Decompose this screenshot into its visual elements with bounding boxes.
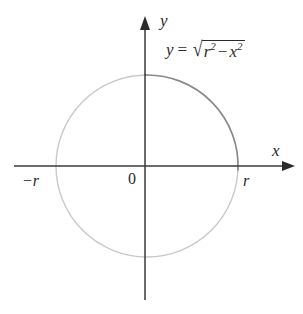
equation-lhs: y: [166, 40, 174, 60]
origin-label: 0: [128, 171, 136, 187]
highlighted-semicircle-arc: [145, 75, 238, 170]
radical-expression: √ r2−x2: [191, 40, 244, 62]
radicand: r2−x2: [202, 40, 245, 62]
math-figure: y x −r 0 r y = √ r2−x2: [0, 0, 303, 314]
radicand-term-one-exponent: 2: [210, 40, 216, 52]
radical-sign-icon: √: [193, 40, 203, 62]
x-axis-tick-label-r: r: [243, 173, 249, 189]
plot-canvas: [0, 0, 303, 314]
equation-annotation: y = √ r2−x2: [166, 40, 245, 62]
radicand-term-two-base: x: [229, 42, 237, 61]
x-axis-arrowhead: [282, 161, 295, 171]
radicand-operator: −: [218, 42, 228, 61]
y-axis-arrowhead: [140, 16, 150, 30]
x-axis-label: x: [272, 142, 280, 159]
equation-equals-sign: =: [178, 40, 188, 60]
x-axis-tick-label-negative-r: −r: [22, 173, 39, 189]
y-axis-label: y: [160, 12, 168, 29]
radicand-term-two-exponent: 2: [237, 40, 243, 52]
